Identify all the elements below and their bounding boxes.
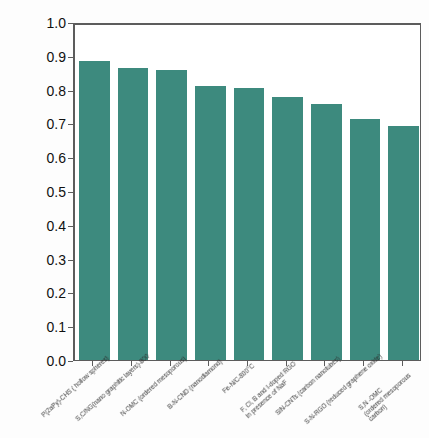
y-axis-tick-label: 0.1: [26, 320, 66, 334]
y-axis-tick-mark: [68, 158, 73, 159]
bar: [118, 68, 149, 360]
y-axis-tick-mark: [68, 327, 73, 328]
y-axis-tick-label: 1.0: [26, 16, 66, 30]
y-axis-tick-mark: [68, 23, 73, 24]
y-axis-tick-label: 0.4: [26, 219, 66, 233]
bar: [156, 70, 187, 360]
x-axis-tick-mark: [247, 361, 248, 366]
x-axis-tick-mark: [131, 361, 132, 366]
y-axis-tick-mark: [68, 361, 73, 362]
x-axis-tick-mark: [324, 361, 325, 366]
x-axis-tick-mark: [92, 361, 93, 366]
y-axis-tick-mark: [68, 293, 73, 294]
x-axis-tick-mark: [170, 361, 171, 366]
x-axis-category-label: Fe-N/C-800°C: [221, 363, 256, 395]
x-axis-category-label-line: S,C/NG(nano graphitic layers)-800: [74, 353, 150, 423]
x-axis-category-label-line: N-OMC (ordered mesoporous): [119, 355, 187, 417]
x-axis-category-label: S,C/NG(nano graphitic layers)-800: [74, 353, 151, 423]
bar: [311, 104, 342, 360]
x-axis-category-label: N-OMC (ordered mesoporous): [119, 355, 188, 418]
x-axis-tick-mark: [208, 361, 209, 366]
bar: [79, 61, 110, 360]
y-axis-tick-label: 0.6: [26, 151, 66, 165]
y-axis-tick-label: 0.2: [26, 286, 66, 300]
bar: [388, 126, 419, 360]
y-axis-tick-mark: [68, 226, 73, 227]
y-axis-tick-label: 0.5: [26, 185, 66, 199]
y-axis-tick-label: 0.3: [26, 253, 66, 267]
x-axis-category-labels: P(2aPy)-CHS ( hollow spheres)S,C/NG(nano…: [0, 366, 429, 438]
bar-series: [75, 25, 420, 360]
x-axis-category-label-line: Fe-N/C-800°C: [221, 363, 255, 395]
bar: [272, 97, 303, 360]
y-axis-tick-mark: [68, 57, 73, 58]
x-axis-tick-mark: [363, 361, 364, 366]
plot-area: [73, 23, 421, 361]
bar-chart-figure: Half-wave potential (V vs RHE) 1.00.90.8…: [0, 0, 429, 438]
bar: [195, 86, 226, 360]
y-axis-tick-label: 0.8: [26, 84, 66, 98]
x-axis-category-label: S,N -OMC(ordered mesoporouscarbon): [357, 366, 417, 423]
y-axis-tick-mark: [68, 91, 73, 92]
y-axis-tick-label: 0.7: [26, 117, 66, 131]
bar: [234, 88, 265, 360]
y-axis-tick-mark: [68, 192, 73, 193]
bar: [350, 119, 381, 360]
y-axis-tick-mark: [68, 260, 73, 261]
y-axis-tick-label: 0.9: [26, 50, 66, 64]
x-axis-tick-mark: [402, 361, 403, 366]
y-axis-tick-mark: [68, 124, 73, 125]
x-axis-tick-mark: [286, 361, 287, 366]
